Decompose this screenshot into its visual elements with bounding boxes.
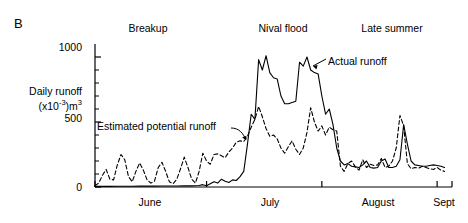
series-line-estimated-potential-runoff <box>95 106 445 185</box>
axis-group <box>95 44 452 187</box>
y-axis-ticks <box>95 57 101 187</box>
series-line-actual-runoff <box>95 56 445 187</box>
plot-canvas <box>0 0 468 223</box>
runoff-chart-figure: B Daily runoff (x10-3)m3 0 500 1000 June… <box>0 0 468 223</box>
leader-line-actual-runoff <box>313 59 326 66</box>
